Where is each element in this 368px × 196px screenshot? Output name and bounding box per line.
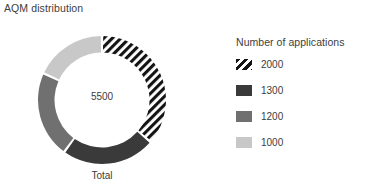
- legend: Number of applications 2000130012001000: [236, 36, 366, 162]
- donut-slice-1200[interactable]: [38, 75, 73, 151]
- legend-item-1000[interactable]: 1000: [236, 136, 366, 148]
- donut-center-total: 5500: [0, 91, 204, 102]
- donut-slice-2000[interactable]: [103, 36, 166, 141]
- page-title: AQM distribution: [4, 2, 83, 14]
- legend-swatch-1000: [236, 137, 252, 148]
- legend-swatch-2000: [236, 59, 252, 70]
- donut-slice-1000[interactable]: [44, 36, 101, 79]
- legend-item-1300[interactable]: 1300: [236, 84, 366, 96]
- legend-label-1300: 1300: [261, 85, 283, 96]
- legend-label-1200: 1200: [261, 111, 283, 122]
- chart-axis-label: Total: [0, 170, 204, 181]
- legend-item-2000[interactable]: 2000: [236, 58, 366, 70]
- legend-title: Number of applications: [236, 36, 366, 48]
- legend-swatch-1200: [236, 111, 252, 122]
- legend-swatch-1300: [236, 85, 252, 96]
- legend-item-1200[interactable]: 1200: [236, 110, 366, 122]
- legend-label-1000: 1000: [261, 137, 283, 148]
- legend-label-2000: 2000: [261, 59, 283, 70]
- donut-slice-1300[interactable]: [65, 132, 149, 164]
- legend-rows: 2000130012001000: [236, 58, 366, 148]
